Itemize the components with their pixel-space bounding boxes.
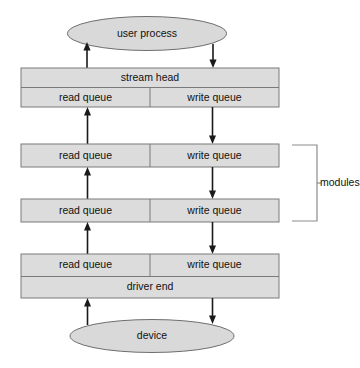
- arrow-userprocess-to-streamhead: [209, 44, 216, 68]
- arrow-head-up-icon: [84, 167, 91, 176]
- read-queue-label-3: read queue: [59, 258, 112, 270]
- arrow-head-down-icon: [209, 60, 216, 69]
- driver-end-block: read queue write queue driver end: [21, 254, 279, 298]
- arrow-module1-to-streamhead: [84, 107, 91, 144]
- arrow-module1-to-module2: [209, 167, 216, 199]
- arrow-module2-to-module1: [84, 167, 91, 199]
- arrow-head-up-icon: [84, 222, 91, 231]
- read-queue-label-1: read queue: [59, 149, 112, 161]
- write-queue-label-0: write queue: [186, 91, 241, 103]
- arrow-driverend-to-device: [209, 298, 216, 324]
- arrow-driverend-to-module2: [84, 222, 91, 254]
- device-node: device: [70, 320, 234, 353]
- driver-end-label: driver end: [127, 280, 174, 292]
- write-queue-label-3: write queue: [186, 258, 241, 270]
- arrow-head-down-icon: [209, 246, 216, 255]
- modules-label: modules: [320, 176, 360, 188]
- arrow-module2-to-driverend: [209, 222, 216, 254]
- arrow-head-up-icon: [84, 298, 91, 307]
- arrow-head-up-icon: [84, 107, 91, 116]
- device-label: device: [137, 329, 168, 341]
- streams-diagram-canvas: user process stream head read queue writ…: [0, 0, 360, 368]
- arrow-streamhead-to-userprocess: [83, 42, 90, 68]
- arrow-streamhead-to-module1: [209, 107, 216, 144]
- modules-bracket: [292, 145, 317, 221]
- read-queue-label-2: read queue: [59, 204, 112, 216]
- module-2-block: read queue write queue: [21, 199, 279, 222]
- arrow-head-down-icon: [209, 316, 216, 325]
- modules-bracket-annotation: modules: [292, 145, 360, 221]
- arrow-device-to-driverend: [84, 298, 91, 325]
- write-queue-label-1: write queue: [186, 149, 241, 161]
- module-1-block: read queue write queue: [21, 144, 279, 167]
- read-queue-label-0: read queue: [59, 91, 112, 103]
- arrow-head-down-icon: [209, 136, 216, 145]
- arrow-head-down-icon: [209, 191, 216, 200]
- write-queue-label-2: write queue: [186, 204, 241, 216]
- streams-diagram: user process stream head read queue writ…: [0, 0, 360, 368]
- user-process-node: user process: [68, 17, 227, 51]
- stream-head-block: stream head read queue write queue: [21, 68, 279, 107]
- user-process-label: user process: [117, 27, 177, 39]
- stream-head-label: stream head: [121, 71, 180, 83]
